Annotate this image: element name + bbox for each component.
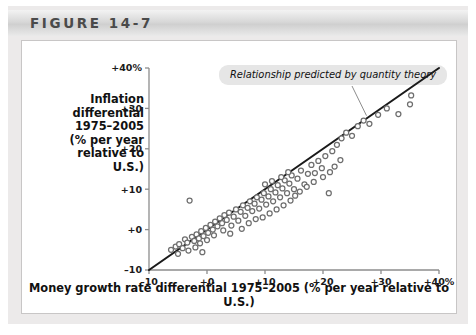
data-point [332,164,337,169]
data-point [285,191,290,196]
data-point [185,240,190,245]
data-point [409,93,414,98]
data-point [221,228,226,233]
data-point [396,112,401,117]
data-point [238,209,243,214]
data-point [198,241,203,246]
data-point [312,171,317,176]
data-point [250,209,255,214]
data-point [311,179,316,184]
data-point [261,191,266,196]
y-tick-label: +0 [127,224,142,235]
data-point [211,233,216,238]
data-point [271,199,276,204]
annotation-leader-line [352,86,367,116]
data-point [246,221,251,226]
data-point [239,226,244,231]
data-point [275,183,280,188]
data-point [206,230,211,235]
data-point [376,112,381,117]
data-point [231,214,236,219]
data-point [338,158,343,163]
data-point [267,211,272,216]
data-point [263,182,268,187]
data-point [286,170,291,175]
data-point [203,225,208,230]
data-point [305,171,310,176]
data-point [200,250,205,255]
data-point [334,142,339,147]
figure-card: Inflation differential 1975–2005 (% per … [21,40,457,314]
data-point [408,102,413,107]
data-point-group [169,93,414,256]
data-point [355,124,360,129]
data-point [236,218,241,223]
data-point [316,158,321,163]
data-point [224,217,229,222]
data-point [295,176,300,181]
data-point [280,186,285,191]
data-point [199,229,204,234]
data-point [384,106,389,111]
data-point [330,149,335,154]
data-point [293,193,298,198]
scatter-plot: –10+0+10+20+30+40%–10+0+10+20+30+40% [22,41,456,313]
data-point [213,219,218,224]
data-point [279,175,284,180]
data-point [281,203,286,208]
data-point [176,251,181,256]
data-point [321,175,326,180]
data-point [193,245,198,250]
y-tick-label: +20 [121,143,143,154]
data-point [208,222,213,227]
data-point [361,118,366,123]
data-point [245,205,250,210]
data-point [220,221,225,226]
data-point [243,213,248,218]
data-point [323,154,328,159]
data-point [186,248,191,253]
data-point [259,197,264,202]
y-tick-label: +30 [121,103,143,114]
y-tick-label: –10 [124,264,142,275]
data-point [264,202,269,207]
data-point [326,191,331,196]
data-point [252,201,257,206]
data-point [210,227,215,232]
data-point [266,194,271,199]
data-point [215,224,220,229]
x-axis-title: Money growth rate differential 1975–2005… [22,281,456,309]
data-point [344,130,349,135]
data-point [180,246,185,251]
data-point [273,190,278,195]
data-point [227,210,232,215]
data-point [269,179,274,184]
data-point [367,121,372,126]
data-point [268,187,273,192]
data-point [205,238,210,243]
data-point [229,223,234,228]
data-point [327,170,332,175]
data-point [292,187,297,192]
figure-number-label: FIGURE 14-7 [30,15,153,31]
data-point [297,189,302,194]
data-point [187,198,192,203]
data-point [309,162,314,167]
data-point [288,198,293,203]
y-tick-label: +10 [121,184,143,195]
data-point [350,133,355,138]
data-point [304,184,309,189]
data-point [278,195,283,200]
y-tick-label: +40% [111,62,142,73]
data-point [257,206,262,211]
data-point [298,168,303,173]
data-point [253,217,258,222]
figure-outer-frame: FIGURE 14-7 Inflation differential 1975–… [8,6,468,324]
data-point [319,166,324,171]
data-point [228,231,233,236]
data-point [339,136,344,141]
data-point [169,247,174,252]
data-point [287,181,292,186]
data-point [260,215,265,220]
data-point [274,207,279,212]
